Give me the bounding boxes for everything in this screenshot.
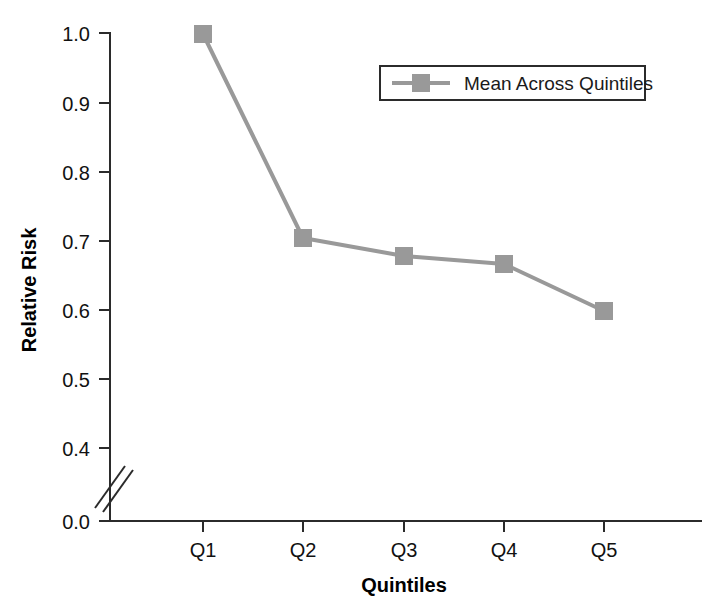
- y-tick-label-0.7: 0.7: [62, 231, 90, 253]
- x-axis-title: Quintiles: [361, 574, 447, 596]
- y-tick-label-1.0: 1.0: [62, 23, 90, 45]
- data-point-q3[interactable]: [395, 247, 413, 265]
- chart-figure: 1.0 0.9 0.8 0.7 0.6 0.5 0.4 0.0 Q1 Q2 Q3…: [0, 0, 720, 607]
- y-tick-label-0.0: 0.0: [62, 511, 90, 533]
- data-point-q4[interactable]: [495, 255, 513, 273]
- axis-break-icon: [95, 466, 133, 512]
- data-point-q1[interactable]: [194, 25, 212, 43]
- legend-marker-swatch: [412, 74, 430, 92]
- data-point-q5[interactable]: [595, 302, 613, 320]
- data-point-q2[interactable]: [294, 229, 312, 247]
- x-tick-label-q1: Q1: [190, 539, 217, 561]
- chart-legend[interactable]: Mean Across Quintiles: [380, 66, 653, 100]
- y-tick-label-0.8: 0.8: [62, 162, 90, 184]
- x-tick-label-q4: Q4: [491, 539, 518, 561]
- x-tick-label-q5: Q5: [591, 539, 618, 561]
- x-tick-label-q2: Q2: [290, 539, 317, 561]
- y-tick-label-0.5: 0.5: [62, 369, 90, 391]
- line-chart: 1.0 0.9 0.8 0.7 0.6 0.5 0.4 0.0 Q1 Q2 Q3…: [0, 0, 720, 607]
- y-tick-label-0.9: 0.9: [62, 93, 90, 115]
- y-tick-label-0.4: 0.4: [62, 438, 90, 460]
- legend-entry-label: Mean Across Quintiles: [464, 73, 653, 94]
- y-tick-label-0.6: 0.6: [62, 300, 90, 322]
- y-axis-title: Relative Risk: [18, 227, 40, 352]
- x-tick-label-q3: Q3: [391, 539, 418, 561]
